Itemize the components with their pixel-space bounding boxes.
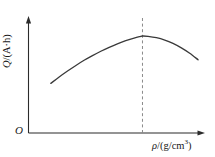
y-axis-quantity: Q bbox=[1, 60, 12, 68]
origin-label: O bbox=[15, 125, 23, 136]
y-axis-label: Q/(A·h) bbox=[2, 34, 13, 68]
y-axis-unit: A·h bbox=[1, 38, 12, 54]
x-axis-unit: g/cm bbox=[163, 140, 184, 151]
chart-plot-area bbox=[0, 0, 215, 157]
x-axis-label: ρ/(g/cm3) bbox=[152, 139, 192, 151]
y-axis-close-paren: ) bbox=[1, 34, 12, 38]
y-axis-separator: /( bbox=[1, 54, 12, 60]
x-axis-close-paren: ) bbox=[188, 140, 192, 151]
data-curve-q-vs-rho bbox=[51, 36, 198, 83]
x-axis-arrowhead bbox=[198, 130, 206, 135]
y-axis-arrowhead bbox=[26, 16, 31, 24]
chart-figure: Q/(A·h) ρ/(g/cm3) O bbox=[0, 0, 215, 157]
